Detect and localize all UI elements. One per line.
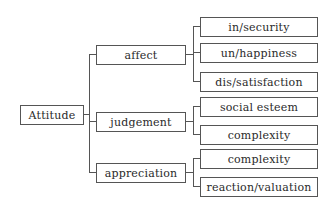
connector — [193, 134, 200, 135]
node-label: judgement — [110, 116, 171, 129]
connector — [193, 52, 200, 53]
node-appreciation: appreciation — [96, 163, 186, 183]
node-reaction-valuation: reaction/valuation — [200, 177, 318, 197]
node-in-security: in/security — [200, 17, 318, 37]
node-label: in/security — [228, 21, 289, 34]
connector — [186, 172, 193, 173]
connector — [89, 172, 96, 173]
node-label: Attitude — [29, 109, 76, 122]
connector — [89, 54, 90, 173]
node-label: un/happiness — [221, 47, 297, 60]
node-label: appreciation — [105, 167, 178, 180]
node-un-happiness: un/happiness — [200, 43, 318, 63]
node-label: social esteem — [220, 101, 298, 114]
connector — [89, 54, 96, 55]
node-attitude: Attitude — [20, 105, 84, 125]
connector — [193, 158, 194, 187]
connector — [193, 26, 200, 27]
node-label: complexity — [228, 129, 291, 142]
node-label: affect — [125, 49, 158, 62]
connector — [193, 81, 200, 82]
node-label: complexity — [228, 153, 291, 166]
node-judgement-complexity: complexity — [200, 125, 318, 145]
connector — [89, 121, 96, 122]
connector — [193, 158, 200, 159]
connector — [193, 186, 200, 187]
connector — [193, 106, 194, 135]
node-label: dis/satisfaction — [215, 76, 302, 89]
connector — [193, 26, 194, 82]
connector — [186, 121, 193, 122]
node-social-esteem: social esteem — [200, 97, 318, 117]
connector — [186, 54, 193, 55]
node-dis-satisfaction: dis/satisfaction — [200, 72, 318, 92]
node-appreciation-complexity: complexity — [200, 149, 318, 169]
node-affect: affect — [96, 45, 186, 65]
connector — [193, 106, 200, 107]
node-label: reaction/valuation — [206, 181, 311, 194]
node-judgement: judgement — [96, 112, 186, 132]
